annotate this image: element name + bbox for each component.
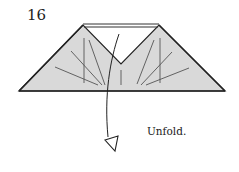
instruction-text: Unfold. [147, 125, 186, 137]
arrow-head-icon [105, 136, 118, 151]
origami-diagram [0, 0, 239, 172]
